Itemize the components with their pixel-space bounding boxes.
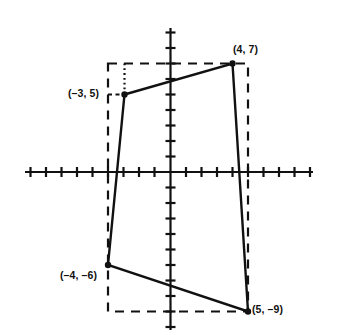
quadrilateral-shape	[108, 64, 248, 312]
helper-lines-group	[108, 64, 125, 95]
coordinate-plane-figure: (–3, 5) (4, 7) (–4, –6) (5, –9)	[0, 0, 337, 335]
vertex-d-label: (–4, –6)	[60, 270, 97, 281]
dashed-bounding-rectangle	[108, 64, 248, 312]
vertex-d-marker	[105, 262, 111, 268]
plot-canvas	[0, 0, 337, 335]
vertex-c-marker	[245, 308, 251, 314]
vertex-a-label: (–3, 5)	[68, 88, 99, 99]
vertex-c-label: (5, –9)	[252, 304, 283, 315]
vertex-markers-group	[105, 60, 251, 314]
vertex-b-marker	[229, 60, 235, 66]
vertex-a-marker	[121, 91, 127, 97]
vertex-b-label: (4, 7)	[233, 44, 258, 55]
